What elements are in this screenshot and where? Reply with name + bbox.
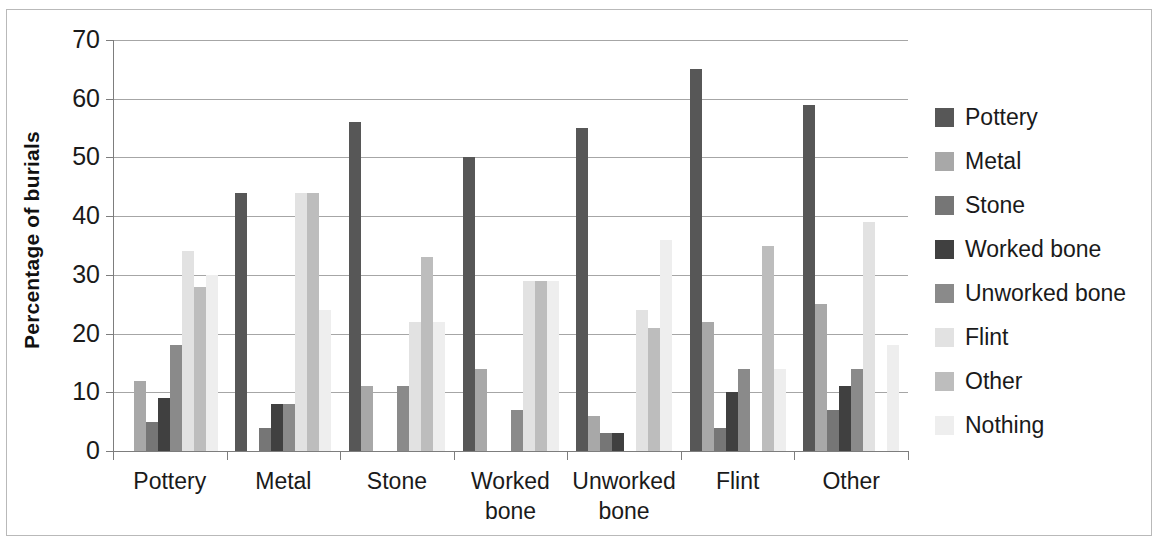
y-tick-label-60: 60 xyxy=(0,86,100,111)
x-tick-label-flint: Flint xyxy=(681,466,795,496)
bar-unworked-bone-worked-bone[interactable] xyxy=(612,433,624,451)
x-tick-mark-1 xyxy=(227,451,228,460)
x-tick-mark-6 xyxy=(794,451,795,460)
bar-pottery-other[interactable] xyxy=(194,287,206,451)
bar-other-pottery[interactable] xyxy=(803,105,815,451)
bar-metal-flint[interactable] xyxy=(295,193,307,451)
bar-pottery-worked-bone[interactable] xyxy=(158,398,170,451)
bar-group-unworked-bone xyxy=(576,40,672,451)
bar-other-worked-bone[interactable] xyxy=(839,386,851,451)
legend-swatch-icon xyxy=(935,328,954,347)
legend-swatch-icon xyxy=(935,196,954,215)
bar-pottery-metal[interactable] xyxy=(134,381,146,451)
bar-flint-unworked-bone[interactable] xyxy=(738,369,750,451)
legend-swatch-icon xyxy=(935,240,954,259)
bar-worked-bone-other[interactable] xyxy=(535,281,547,451)
bar-flint-stone[interactable] xyxy=(714,428,726,451)
bar-stone-pottery[interactable] xyxy=(349,122,361,451)
x-tick-label-stone: Stone xyxy=(340,466,454,496)
legend-item-label: Stone xyxy=(965,194,1025,217)
bar-worked-bone-flint[interactable] xyxy=(523,281,535,451)
bar-flint-other[interactable] xyxy=(762,246,774,452)
legend-item-label: Worked bone xyxy=(965,238,1101,261)
bar-group-stone xyxy=(349,40,445,451)
x-tick-mark-4 xyxy=(567,451,568,460)
bar-unworked-bone-pottery[interactable] xyxy=(576,128,588,451)
x-tick-mark-end xyxy=(908,451,909,460)
bar-flint-metal[interactable] xyxy=(702,322,714,451)
bar-unworked-bone-nothing[interactable] xyxy=(660,240,672,451)
legend-item-label: Nothing xyxy=(965,414,1044,437)
legend-item-nothing[interactable]: Nothing xyxy=(935,403,1150,447)
chart-legend: PotteryMetalStoneWorked boneUnworked bon… xyxy=(935,95,1150,447)
x-tick-label-worked-bone: Workedbone xyxy=(454,466,568,526)
bar-pottery-stone[interactable] xyxy=(146,422,158,451)
bar-unworked-bone-stone[interactable] xyxy=(600,433,612,451)
bar-metal-stone[interactable] xyxy=(259,428,271,451)
bar-pottery-nothing[interactable] xyxy=(206,275,218,451)
legend-item-unworked-bone[interactable]: Unworked bone xyxy=(935,271,1150,315)
bar-unworked-bone-other[interactable] xyxy=(648,328,660,451)
bar-metal-nothing[interactable] xyxy=(319,310,331,451)
bar-other-flint[interactable] xyxy=(863,222,875,451)
legend-item-label: Unworked bone xyxy=(965,282,1126,305)
y-tick-label-50: 50 xyxy=(0,144,100,169)
x-tick-label-pottery: Pottery xyxy=(113,466,227,496)
bar-stone-nothing[interactable] xyxy=(433,322,445,451)
gridline-0 xyxy=(113,451,908,452)
x-tick-label-metal: Metal xyxy=(227,466,341,496)
bar-other-stone[interactable] xyxy=(827,410,839,451)
bar-flint-pottery[interactable] xyxy=(690,69,702,451)
y-tick-label-30: 30 xyxy=(0,262,100,287)
bar-pottery-unworked-bone[interactable] xyxy=(170,345,182,451)
bar-worked-bone-nothing[interactable] xyxy=(547,281,559,451)
x-axis-tick-labels: PotteryMetalStoneWorkedboneUnworkedboneF… xyxy=(113,466,908,536)
legend-swatch-icon xyxy=(935,108,954,127)
bar-other-metal[interactable] xyxy=(815,304,827,451)
legend-swatch-icon xyxy=(935,372,954,391)
y-axis-tick-labels: 010203040506070 xyxy=(0,0,100,547)
legend-item-flint[interactable]: Flint xyxy=(935,315,1150,359)
bar-other-nothing[interactable] xyxy=(887,345,899,451)
bar-group-pottery xyxy=(122,40,218,451)
x-tick-mark-2 xyxy=(340,451,341,460)
legend-swatch-icon xyxy=(935,152,954,171)
bar-metal-other[interactable] xyxy=(307,193,319,451)
bar-group-metal xyxy=(235,40,331,451)
legend-swatch-icon xyxy=(935,284,954,303)
bar-flint-worked-bone[interactable] xyxy=(726,392,738,451)
x-tick-label-unworked-bone: Unworkedbone xyxy=(567,466,681,526)
x-tick-mark-3 xyxy=(454,451,455,460)
bar-stone-metal[interactable] xyxy=(361,386,373,451)
bar-group-flint xyxy=(690,40,786,451)
bar-pottery-flint[interactable] xyxy=(182,251,194,451)
bar-stone-other[interactable] xyxy=(421,257,433,451)
bar-other-unworked-bone[interactable] xyxy=(851,369,863,451)
legend-item-label: Flint xyxy=(965,326,1008,349)
bar-unworked-bone-flint[interactable] xyxy=(636,310,648,451)
legend-item-pottery[interactable]: Pottery xyxy=(935,95,1150,139)
legend-item-other[interactable]: Other xyxy=(935,359,1150,403)
bar-metal-worked-bone[interactable] xyxy=(271,404,283,451)
x-tick-mark-0 xyxy=(113,451,114,460)
y-tick-label-40: 40 xyxy=(0,203,100,228)
bar-group-other xyxy=(803,40,899,451)
bar-metal-unworked-bone[interactable] xyxy=(283,404,295,451)
bar-flint-nothing[interactable] xyxy=(774,369,786,451)
y-tick-label-70: 70 xyxy=(0,27,100,52)
legend-item-worked-bone[interactable]: Worked bone xyxy=(935,227,1150,271)
bar-worked-bone-pottery[interactable] xyxy=(463,157,475,451)
bar-stone-unworked-bone[interactable] xyxy=(397,386,409,451)
legend-item-label: Pottery xyxy=(965,106,1038,129)
legend-swatch-icon xyxy=(935,416,954,435)
bar-metal-pottery[interactable] xyxy=(235,193,247,451)
legend-item-metal[interactable]: Metal xyxy=(935,139,1150,183)
bar-unworked-bone-metal[interactable] xyxy=(588,416,600,451)
bar-worked-bone-metal[interactable] xyxy=(475,369,487,451)
legend-item-stone[interactable]: Stone xyxy=(935,183,1150,227)
legend-item-label: Other xyxy=(965,370,1023,393)
bar-worked-bone-unworked-bone[interactable] xyxy=(511,410,523,451)
y-tick-label-10: 10 xyxy=(0,379,100,404)
bar-stone-flint[interactable] xyxy=(409,322,421,451)
y-tick-label-0: 0 xyxy=(0,438,100,463)
